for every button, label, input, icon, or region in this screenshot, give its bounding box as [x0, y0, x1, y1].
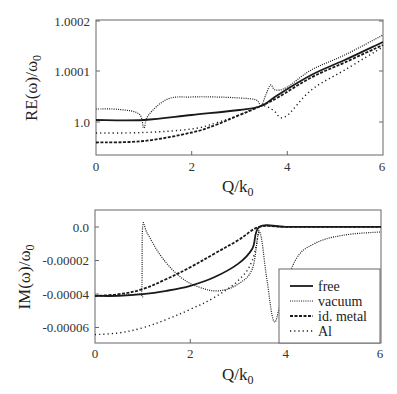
top-series-group: [96, 35, 383, 143]
top-ytick-label: 1.0: [74, 115, 90, 130]
top-plot-frame: [96, 20, 383, 155]
series-al-line: [95, 227, 260, 335]
bottom-xtick-label: 4: [282, 346, 289, 361]
top-xtick-label: 2: [188, 159, 195, 174]
bottom-xtick-label: 6: [377, 346, 384, 361]
bottom-ytick-label: -0.00004: [42, 287, 89, 302]
series-vacuum-line: [96, 35, 383, 128]
bottom-y-ticks: 0.0 -0.00002 -0.00004 -0.00006: [42, 220, 99, 335]
legend-label: id. metal: [318, 309, 367, 324]
top-xtick-label: 6: [379, 159, 386, 174]
bottom-xtick-label: 2: [187, 346, 194, 361]
bottom-panel: 0.0 -0.00002 -0.00004 -0.00006 0 2 4 6 Q…: [15, 210, 384, 387]
bottom-y-axis-title: IM(ω)/ω0: [15, 244, 37, 309]
bottom-xtick-label: 0: [92, 346, 99, 361]
top-ytick-label: 1.0001: [54, 64, 90, 79]
figure: 1.0002 1.0001 1.0 0 2 4 6 Q/k0 RE(ω)/ω0 …: [0, 0, 397, 394]
top-xtick-label: 0: [93, 159, 100, 174]
bottom-ytick-label: -0.00006: [42, 320, 89, 335]
bottom-ytick-label: -0.00002: [42, 253, 89, 268]
series-id-metal-line: [96, 45, 383, 143]
top-ytick-label: 1.0002: [54, 14, 90, 29]
top-x-axis-title: Q/k0: [222, 177, 254, 199]
legend-label: vacuum: [318, 294, 362, 309]
top-panel: 1.0002 1.0001 1.0 0 2 4 6 Q/k0 RE(ω)/ω0: [22, 14, 386, 199]
top-xtick-label: 4: [284, 159, 291, 174]
legend-label: Al: [318, 324, 332, 339]
bottom-x-axis-title: Q/k0: [222, 365, 254, 387]
bottom-ytick-label: 0.0: [73, 220, 89, 235]
legend-label: free: [318, 279, 340, 294]
legend: free vacuum id. metal Al: [279, 269, 380, 343]
top-x-ticks: 0 2 4 6: [93, 151, 386, 174]
series-free-line: [96, 42, 383, 120]
top-y-axis-title: RE(ω)/ω0: [22, 55, 44, 121]
